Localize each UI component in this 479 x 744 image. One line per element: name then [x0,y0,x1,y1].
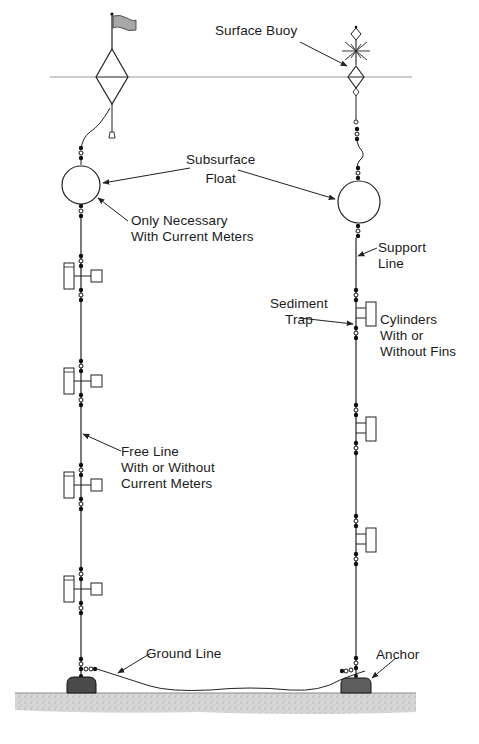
subsurface-float-left [62,166,100,204]
subsurface-float-right [338,181,380,223]
label-cylinders: Cylinders With or Without Fins [380,312,456,360]
left-mooring [62,12,136,693]
ground-line [97,669,365,691]
label-anchor: Anchor [376,647,419,663]
seabed [15,693,416,714]
label-subsurface-float: Subsurface Float [186,152,255,187]
top-marker-icon [351,28,361,40]
mooring-diagram [0,0,479,744]
label-support-line: Support Line [378,240,426,272]
right-mooring [338,26,380,693]
current-meter [64,567,102,615]
label-ground-line: Ground Line [146,646,221,662]
sediment-trap [354,403,376,455]
sediment-trap [354,288,376,340]
label-surface-buoy: Surface Buoy [215,23,297,39]
anchor-right [341,678,371,693]
sediment-trap [354,514,376,566]
weight-icon [109,132,115,138]
flag-icon [110,12,136,49]
current-meter [64,254,102,302]
label-sediment-trap: Sediment Trap [270,296,328,328]
anchor-left [67,677,96,693]
label-only-necessary: Only Necessary With Current Meters [131,213,254,245]
label-free-line: Free Line With or Without Current Meters [121,444,215,492]
leader-arrows [83,42,396,678]
current-meter [64,463,102,511]
current-meter [64,359,102,407]
